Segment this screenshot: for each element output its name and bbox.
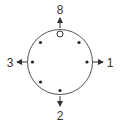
label-bottom: 2: [57, 109, 64, 123]
filled-dot: [39, 80, 42, 83]
filled-dot: [31, 60, 34, 63]
filled-dot: [85, 60, 88, 63]
open-dot: [57, 31, 63, 37]
label-right: 1: [107, 56, 114, 70]
label-top: 8: [57, 3, 64, 17]
filled-dot: [77, 41, 80, 44]
circle-diagram: 8 1 2 3: [0, 0, 120, 126]
filled-dot: [58, 89, 61, 92]
main-circle: [28, 30, 93, 95]
label-left: 3: [7, 56, 14, 70]
filled-dot: [39, 41, 42, 44]
